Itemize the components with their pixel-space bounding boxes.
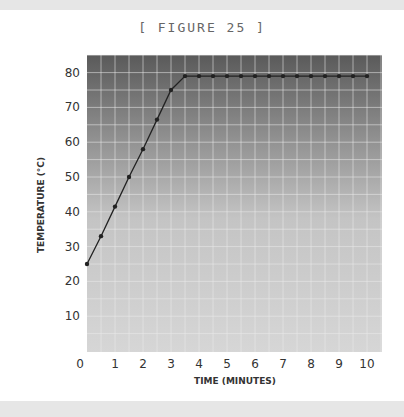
- plot-area: [87, 55, 382, 352]
- data-point: [337, 74, 341, 78]
- svg-text:5: 5: [223, 357, 231, 371]
- svg-text:4: 4: [195, 357, 203, 371]
- data-point: [239, 74, 243, 78]
- svg-text:6: 6: [251, 357, 259, 371]
- svg-text:9: 9: [335, 357, 343, 371]
- data-point: [323, 74, 327, 78]
- data-point: [211, 74, 215, 78]
- data-point: [141, 147, 145, 151]
- x-axis-label: TIME (MINUTES): [194, 376, 276, 386]
- data-point: [267, 74, 271, 78]
- data-point: [155, 117, 159, 121]
- data-point: [113, 204, 117, 208]
- y-axis-ticks: 1020304050607080: [65, 66, 80, 324]
- svg-text:2: 2: [139, 357, 147, 371]
- data-point: [85, 262, 89, 266]
- data-point: [127, 175, 131, 179]
- svg-text:1: 1: [111, 357, 119, 371]
- data-point: [351, 74, 355, 78]
- svg-text:7: 7: [279, 357, 287, 371]
- y-axis-label: TEMPERATURE (°C): [36, 157, 46, 253]
- svg-text:0: 0: [76, 357, 84, 371]
- data-point: [197, 74, 201, 78]
- data-point: [295, 74, 299, 78]
- data-point: [225, 74, 229, 78]
- data-point: [309, 74, 313, 78]
- svg-text:80: 80: [65, 66, 80, 80]
- svg-text:30: 30: [65, 240, 80, 254]
- data-point: [183, 74, 187, 78]
- data-point: [365, 74, 369, 78]
- bottom-band: [0, 401, 404, 417]
- svg-text:8: 8: [307, 357, 315, 371]
- svg-text:60: 60: [65, 135, 80, 149]
- svg-text:20: 20: [65, 274, 80, 288]
- line-chart: 1020304050607080 012345678910 TEMPERATUR…: [0, 0, 404, 417]
- svg-text:3: 3: [167, 357, 175, 371]
- data-point: [169, 88, 173, 92]
- data-point: [281, 74, 285, 78]
- svg-text:40: 40: [65, 205, 80, 219]
- svg-text:10: 10: [65, 309, 80, 323]
- svg-text:10: 10: [359, 357, 374, 371]
- data-point: [99, 234, 103, 238]
- svg-text:70: 70: [65, 100, 80, 114]
- x-axis-ticks: 012345678910: [76, 357, 374, 371]
- svg-text:50: 50: [65, 170, 80, 184]
- data-point: [253, 74, 257, 78]
